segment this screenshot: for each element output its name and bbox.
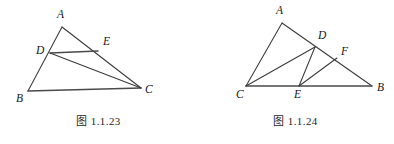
segment-DC xyxy=(50,53,141,88)
segment-AB xyxy=(282,23,372,86)
vertex-label-b: B xyxy=(377,82,384,94)
figure-1-1-24-caption: 图 1.1.24 xyxy=(197,112,394,128)
figure-1-1-24-drawing: ABCDEF xyxy=(197,0,394,112)
segment-AC xyxy=(246,23,282,86)
segment-AC xyxy=(62,27,141,88)
segment-AB xyxy=(28,27,62,91)
figure-page: ABCDE 图 1.1.23 ABCDEF 图 1.1.24 xyxy=(0,0,394,144)
vertex-label-e: E xyxy=(103,36,110,48)
segment-CD xyxy=(246,47,315,86)
vertex-label-f: F xyxy=(341,46,348,58)
vertex-label-d: D xyxy=(36,45,44,57)
vertex-label-d: D xyxy=(318,30,326,42)
figure-1-1-23-drawing: ABCDE xyxy=(0,0,197,112)
segment-DE xyxy=(50,51,98,53)
figure-1-1-23-svg xyxy=(0,0,197,112)
vertex-label-a: A xyxy=(57,9,64,21)
figure-1-1-23-caption: 图 1.1.23 xyxy=(0,112,197,128)
vertex-label-c: C xyxy=(145,84,153,96)
figure-1-1-24: ABCDEF 图 1.1.24 xyxy=(197,0,394,144)
figure-1-1-23: ABCDE 图 1.1.23 xyxy=(0,0,197,144)
segment-BC xyxy=(28,88,141,91)
vertex-label-c: C xyxy=(236,89,244,101)
vertex-label-e: E xyxy=(294,89,301,101)
vertex-label-a: A xyxy=(276,5,283,17)
vertex-label-b: B xyxy=(16,93,23,105)
